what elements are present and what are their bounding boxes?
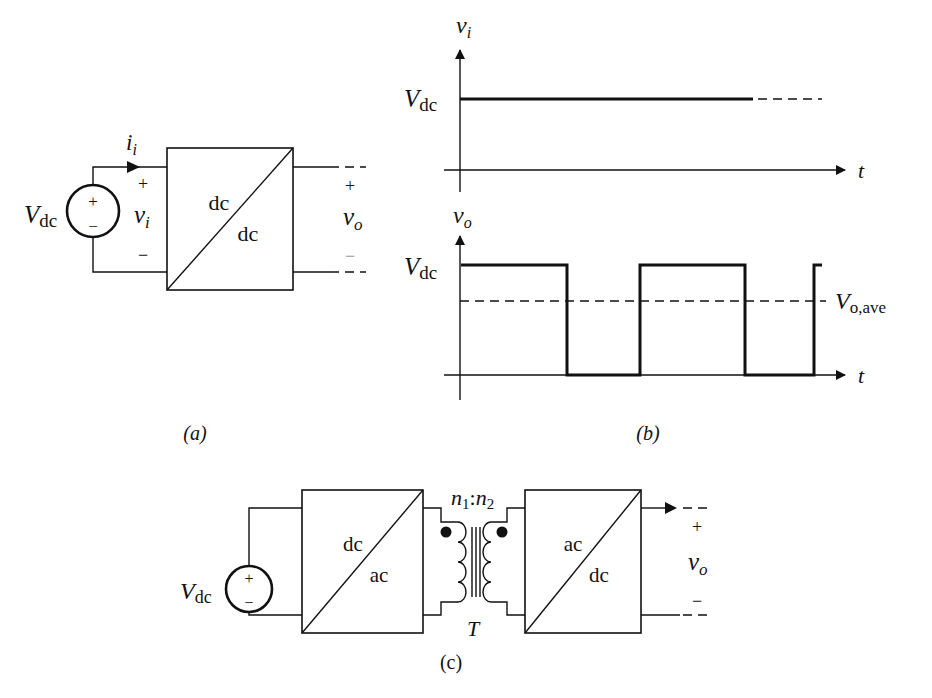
secondary-polarity-dot-icon — [497, 527, 508, 538]
panel-b-output-waveform: vo t Vdc Vo,ave — [404, 202, 886, 400]
c-source-plus: + — [244, 570, 253, 587]
bottom-input-wire — [93, 238, 167, 272]
caption-c: (c) — [440, 651, 462, 674]
c-converter1-output-type: ac — [370, 563, 389, 587]
output-voltage-label: vo — [343, 203, 363, 234]
converter-input-type: dc — [209, 190, 230, 215]
c-converter1-input-type: dc — [343, 532, 363, 556]
c-output-voltage-label: vo — [688, 548, 708, 579]
input-current-label: ii — [126, 130, 137, 158]
vo-axis-label: vo — [453, 202, 472, 231]
caption-b: (b) — [636, 422, 660, 445]
input-voltage-label: vi — [134, 201, 150, 232]
c-source-minus: − — [244, 594, 253, 611]
panel-a-circuit: + − Vdc ii + vi − dc dc + vo − — [24, 130, 366, 290]
vo-t-label: t — [858, 363, 865, 388]
primary-top-wire — [423, 508, 458, 522]
output-plus: + — [345, 176, 355, 196]
c-top-input-wire — [249, 508, 302, 566]
secondary-winding-icon — [483, 522, 491, 602]
vi-axis-label: vi — [456, 12, 471, 41]
primary-bottom-wire — [423, 602, 458, 615]
transformer-label: T — [467, 616, 481, 641]
c-source-label: Vdc — [180, 578, 212, 607]
caption-a: (a) — [183, 422, 207, 445]
converter-output-type: dc — [238, 221, 259, 246]
source-plus: + — [88, 192, 98, 211]
c-output-plus: + — [692, 517, 702, 537]
input-minus: − — [138, 245, 148, 265]
secondary-bottom-wire — [491, 602, 525, 615]
vi-t-label: t — [858, 158, 865, 183]
c-converter2-output-type: dc — [589, 563, 609, 587]
vo-vdc-label: Vdc — [404, 253, 437, 283]
output-minus: − — [345, 246, 355, 266]
secondary-top-wire — [491, 508, 525, 522]
dc-dc-converter-figure: + − Vdc ii + vi − dc dc + vo − (a) vi t … — [0, 0, 932, 698]
vo-square-wave — [461, 265, 822, 375]
source-label: Vdc — [24, 201, 57, 231]
c-bottom-input-wire — [249, 612, 302, 615]
c-converter2-diagonal — [525, 490, 641, 633]
vo-average-label: Vo,ave — [835, 288, 886, 317]
c-output-arrow-icon — [665, 502, 677, 514]
panel-c-circuit: + − Vdc dc ac n1:n2 T ac dc — [180, 485, 712, 641]
input-plus: + — [138, 174, 148, 194]
panel-b-input-waveform: vi t Vdc — [404, 12, 865, 192]
turns-ratio-label: n1:n2 — [451, 485, 494, 512]
converter-diagonal — [167, 148, 293, 290]
current-arrow-icon — [127, 161, 140, 173]
primary-polarity-dot-icon — [441, 527, 452, 538]
vi-vdc-label: Vdc — [404, 85, 437, 115]
primary-winding-icon — [458, 522, 466, 602]
c-output-minus: − — [692, 591, 702, 611]
c-converter2-input-type: ac — [564, 532, 583, 556]
c-converter1-diagonal — [302, 490, 423, 633]
source-minus: − — [88, 217, 98, 236]
